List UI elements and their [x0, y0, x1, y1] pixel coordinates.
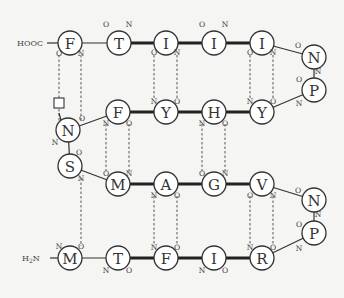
backbone-bonds [68, 43, 314, 258]
nitrogen-label: N [174, 48, 181, 57]
n-terminus-label: H2N [22, 254, 40, 264]
oxygen-label: O [295, 41, 301, 50]
nitrogen-label: N [151, 191, 158, 200]
oxygen-label: O [126, 119, 132, 128]
residue-letter: P [309, 225, 319, 243]
residue-letter: F [113, 104, 123, 122]
residue-letter: N [307, 49, 320, 67]
residue-i: I [202, 31, 226, 55]
nitrogen-label: N [151, 243, 158, 252]
nitrogen-label: N [126, 20, 133, 29]
residue-letter: V [256, 176, 269, 194]
oxygen-label: O [174, 191, 180, 200]
oxygen-label: O [79, 114, 85, 123]
nitrogen-label: N [199, 266, 206, 275]
nitrogen-label: N [103, 119, 110, 128]
nitrogen-label: N [222, 20, 229, 29]
oxygen-label: O [270, 243, 276, 252]
oxygen-label: O [56, 49, 62, 58]
nitrogen-label: N [270, 191, 277, 200]
oxygen-label: O [199, 169, 205, 178]
residue-letter: R [256, 250, 268, 268]
residue-letter: I [163, 35, 169, 53]
residue-letter: F [65, 35, 75, 53]
nitrogen-label: N [270, 48, 277, 57]
residue-n: N [302, 188, 326, 212]
nitrogen-label: N [247, 97, 254, 106]
residue-letter: Y [160, 104, 172, 122]
nitrogen-label: N [126, 169, 133, 178]
c-terminus-label: HOOC [17, 39, 43, 48]
square-marker [54, 98, 64, 108]
residue-letter: H [207, 104, 220, 122]
oxygen-label: O [103, 169, 109, 178]
residue-letter: F [161, 250, 171, 268]
residue-letter: G [208, 176, 220, 194]
beta-sheet-diagram: HOOC H2N FTIIINPYHYFNSMAGVNPRIFTM ONONON… [0, 0, 344, 298]
oxygen-label: O [270, 97, 276, 106]
nitrogen-label: N [222, 169, 229, 178]
nitrogen-label: N [78, 49, 85, 58]
nitrogen-label: N [103, 266, 110, 275]
hydrogen-bonds [59, 55, 273, 246]
oxygen-label: O [126, 266, 132, 275]
residue-letter: I [211, 35, 217, 53]
oxygen-label: O [296, 220, 302, 229]
nitrogen-label: N [78, 174, 85, 183]
residue-letter: I [211, 250, 217, 268]
residue-p: P [302, 78, 326, 102]
terminals: HOOC H2N [17, 39, 58, 264]
residue-letter: A [160, 176, 172, 194]
residue-letter: Y [256, 104, 268, 122]
oxygen-label: O [247, 48, 253, 57]
residue-letter: T [114, 35, 124, 53]
residue-letter: S [65, 158, 75, 176]
residue-letter: M [62, 250, 77, 268]
oxygen-label: O [199, 20, 205, 29]
residue-n: N [302, 45, 326, 69]
residue-letter: T [113, 250, 123, 268]
oxygen-label: O [151, 48, 157, 57]
nitrogen-label: N [296, 99, 303, 108]
atom-labels: ONONONONONONONNONONONOONONONNOONONONONNO… [52, 20, 322, 275]
oxygen-label: O [222, 266, 228, 275]
oxygen-label: O [222, 119, 228, 128]
oxygen-label: O [174, 97, 180, 106]
residue-letter: M [110, 176, 125, 194]
oxygen-label: O [174, 243, 180, 252]
nitrogen-label: N [315, 67, 322, 76]
nitrogen-label: N [296, 244, 303, 253]
residue-letter: P [309, 82, 319, 100]
oxygen-label: O [296, 75, 302, 84]
residue-letter: I [259, 35, 265, 53]
nitrogen-label: N [52, 138, 59, 147]
nitrogen-label: N [247, 243, 254, 252]
residue-letter: N [61, 122, 74, 140]
residues: FTIIINPYHYFNSMAGVNPRIFTM [56, 31, 326, 270]
oxygen-label: O [295, 186, 301, 195]
nitrogen-label: N [151, 97, 158, 106]
residue-letter: N [307, 192, 320, 210]
oxygen-label: O [247, 191, 253, 200]
residue-t: T [107, 31, 131, 55]
oxygen-label: O [76, 148, 82, 157]
oxygen-label: O [78, 242, 84, 251]
residue-n: N [56, 118, 80, 142]
diagram-canvas: HOOC H2N FTIIINPYHYFNSMAGVNPRIFTM ONONON… [0, 0, 344, 298]
residue-p: P [302, 221, 326, 245]
oxygen-label: O [103, 20, 109, 29]
nitrogen-label: N [56, 242, 63, 251]
nitrogen-label: N [315, 210, 322, 219]
nitrogen-label: N [199, 119, 206, 128]
